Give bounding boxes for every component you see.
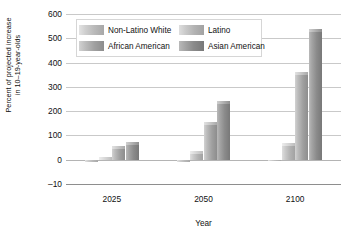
bar-top-highlight bbox=[204, 122, 217, 125]
y-axis-tick-label: 400 bbox=[48, 58, 62, 66]
bar-fill bbox=[295, 72, 308, 159]
legend-label: African American bbox=[108, 42, 170, 51]
legend-item-african-american[interactable]: African American bbox=[79, 38, 179, 54]
bar-top-highlight bbox=[217, 101, 230, 104]
bar-top-highlight bbox=[99, 157, 112, 160]
y-axis-title: Percent of projected increase in 10–19-y… bbox=[4, 0, 30, 140]
y-axis-tick-label: 600 bbox=[48, 10, 62, 18]
legend-item-non-latino-white[interactable]: Non-Latino White bbox=[79, 22, 179, 38]
bar[interactable] bbox=[295, 72, 308, 159]
legend-swatch-icon bbox=[79, 41, 104, 51]
x-axis-tick-label: 2100 bbox=[286, 195, 305, 203]
y-axis-tick-label: 200 bbox=[48, 107, 62, 115]
legend-label: Non-Latino White bbox=[108, 26, 171, 35]
bar[interactable] bbox=[112, 146, 125, 159]
legend-item-asian-american[interactable]: Asian American bbox=[179, 38, 265, 54]
gridline bbox=[66, 184, 341, 185]
x-axis-tick-label: 2025 bbox=[103, 195, 122, 203]
legend-swatch-icon bbox=[179, 25, 204, 35]
bar-top-highlight bbox=[126, 142, 139, 145]
bar-fill bbox=[309, 29, 322, 160]
legend-swatch-icon bbox=[179, 41, 204, 51]
bar[interactable] bbox=[190, 151, 203, 160]
bar[interactable] bbox=[268, 160, 281, 162]
bar[interactable] bbox=[99, 157, 112, 160]
bar[interactable] bbox=[217, 101, 230, 159]
bar-fill bbox=[268, 160, 281, 162]
bar[interactable] bbox=[85, 160, 98, 162]
bar[interactable] bbox=[126, 142, 139, 160]
bar-fill bbox=[204, 122, 217, 160]
bar[interactable] bbox=[177, 160, 190, 162]
y-axis-tick-label: 300 bbox=[48, 83, 62, 91]
chart-legend: Non-Latino White Latino African American… bbox=[76, 19, 262, 57]
x-axis-tick-label: 2050 bbox=[194, 195, 213, 203]
y-axis-tick-label: 0 bbox=[57, 156, 62, 164]
y-axis-title-line-1: Percent of projected increase bbox=[4, 0, 13, 140]
bar-top-highlight bbox=[112, 146, 125, 149]
bar-fill bbox=[217, 101, 230, 159]
bar[interactable] bbox=[282, 143, 295, 160]
x-axis-title: Year bbox=[66, 219, 341, 228]
bar-top-highlight bbox=[190, 151, 203, 154]
bar-fill bbox=[177, 160, 190, 162]
y-axis-title-line-2: in 10–19-year-olds bbox=[13, 0, 22, 140]
bar[interactable] bbox=[204, 122, 217, 160]
legend-swatch-icon bbox=[79, 25, 104, 35]
y-axis-tick-label: 100 bbox=[48, 131, 62, 139]
y-axis-tick-label: 500 bbox=[48, 34, 62, 42]
legend-item-latino[interactable]: Latino bbox=[179, 22, 265, 38]
bar-top-highlight bbox=[282, 143, 295, 146]
bar[interactable] bbox=[309, 29, 322, 160]
bar-top-highlight bbox=[295, 72, 308, 75]
legend-label: Asian American bbox=[208, 42, 265, 51]
bar-top-highlight bbox=[309, 29, 322, 32]
legend-label: Latino bbox=[208, 26, 230, 35]
bar-fill bbox=[85, 160, 98, 162]
y-axis-tick-label: –10 bbox=[48, 180, 62, 188]
bar-chart: Percent of projected increase in 10–19-y… bbox=[0, 0, 358, 245]
